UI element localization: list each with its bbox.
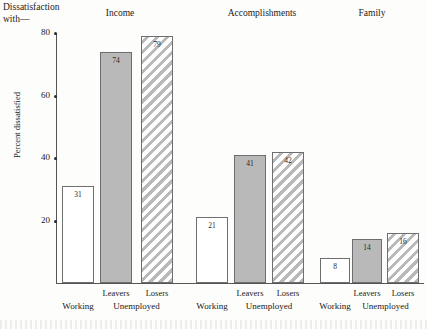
group-header-income: Income [60,8,180,18]
plot-area: 31747921414281416 [0,33,427,283]
bar-family-working: 8 [320,258,350,283]
chart-figure: Dissatisfaction with— Percent dissatisfi… [0,0,427,329]
group-header-accomplishments: Accomplishments [202,8,322,18]
bar-value-label: 14 [353,243,381,252]
bar-value-label: 74 [101,56,131,65]
bar-value-label: 21 [197,221,227,230]
group-header-family: Family [312,8,427,18]
bar-value-label: 16 [388,237,418,246]
x-label-losers: Losers [122,288,192,298]
bar-income-leavers: 74 [100,52,132,283]
bar-income-losers: 79 [141,36,173,283]
bar-family-losers: 16 [387,233,419,283]
x-label-unemployed: Unemployed [341,301,427,311]
bar-family-leavers: 14 [352,239,382,283]
bar-value-label: 31 [63,190,93,199]
bar-accomplishments-leavers: 41 [234,155,266,283]
scan-bottom-edge [0,320,427,329]
bar-accomplishments-working: 21 [196,217,228,283]
figure-caption: Dissatisfaction with— [3,2,59,25]
x-label-losers: Losers [253,288,323,298]
bar-value-label: 42 [273,156,303,165]
x-label-losers: Losers [368,288,427,298]
bar-accomplishments-losers: 42 [272,152,304,283]
bar-value-label: 8 [321,262,349,271]
x-axis-baseline [56,283,424,284]
x-label-unemployed: Unemployed [92,301,182,311]
bar-value-label: 41 [235,159,265,168]
bar-income-working: 31 [62,186,94,283]
bar-value-label: 79 [142,40,172,49]
